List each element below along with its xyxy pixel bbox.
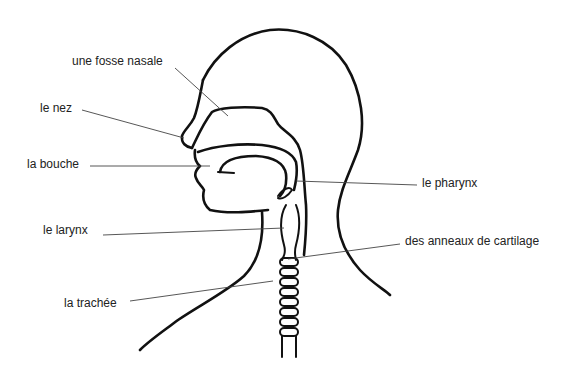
label-trachee: la trachée xyxy=(64,296,117,310)
nasal-cavity-outline xyxy=(192,107,306,255)
trachea-tube xyxy=(282,336,296,357)
leader-nez xyxy=(82,110,184,138)
label-fosse-nasale: une fosse nasale xyxy=(72,54,163,68)
label-larynx: le larynx xyxy=(43,223,88,237)
trachea-rings xyxy=(280,258,298,336)
respiratory-diagram: une fosse nasale le nez la bouche le pha… xyxy=(0,0,579,378)
label-bouche: la bouche xyxy=(27,157,79,171)
label-nez: le nez xyxy=(40,101,72,115)
leader-fosse-nasale xyxy=(175,68,228,116)
larynx-right xyxy=(295,205,299,260)
label-anneaux: des anneaux de cartilage xyxy=(405,234,539,248)
leader-trachee xyxy=(130,281,273,301)
larynx-left xyxy=(281,205,286,260)
label-pharynx: le pharynx xyxy=(422,176,477,190)
leader-pharynx xyxy=(296,181,417,185)
tongue-outline xyxy=(220,156,286,196)
leader-larynx xyxy=(103,228,284,235)
tongue-tip xyxy=(218,172,234,173)
